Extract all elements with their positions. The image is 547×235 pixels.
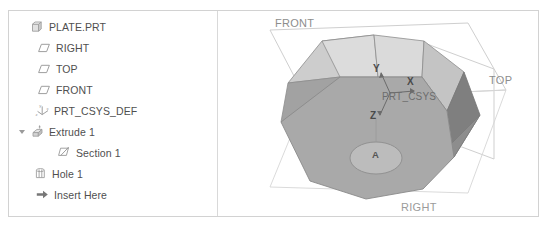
chevron-down-icon[interactable] xyxy=(15,121,28,142)
csys-name-label: PRT_CSYS xyxy=(382,91,436,102)
tree-item-label: FRONT xyxy=(56,84,93,96)
tree-item-label: PRT_CSYS_DEF xyxy=(54,105,137,117)
tree-item-label: Hole 1 xyxy=(52,168,83,180)
tree-item-front[interactable]: FRONT xyxy=(9,79,217,100)
datum-label-front: FRONT xyxy=(275,17,314,29)
twisty-placeholder xyxy=(15,16,28,37)
tree-item-prt-csys-def[interactable]: y x z PRT_CSYS_DEF xyxy=(9,100,217,121)
csys-axis-label-x: X xyxy=(407,76,414,87)
tree-item-plate-prt[interactable]: PLATE.PRT xyxy=(9,16,217,37)
tree-item-section-1[interactable]: Section 1 xyxy=(9,142,217,163)
csys-axis-label-y: Y xyxy=(373,63,380,74)
model-graphics xyxy=(218,11,538,216)
svg-text:x: x xyxy=(46,106,49,111)
datum-label-top: TOP xyxy=(489,74,512,86)
csys-icon: y x z xyxy=(33,102,51,120)
tree-item-label: TOP xyxy=(56,63,78,75)
part-icon xyxy=(28,18,46,36)
graphics-viewport[interactable]: FRONT TOP RIGHT Y X Z PRT_CSYS A xyxy=(218,11,538,216)
tree-item-insert-here[interactable]: Insert Here xyxy=(9,184,217,205)
model-window: PLATE.PRT RIGHT TOP xyxy=(8,10,539,217)
tree-item-label: Extrude 1 xyxy=(49,126,95,138)
model-tree-panel[interactable]: PLATE.PRT RIGHT TOP xyxy=(9,11,218,216)
tree-item-label: Section 1 xyxy=(76,147,121,159)
tree-item-right[interactable]: RIGHT xyxy=(9,37,217,58)
datum-plane-icon xyxy=(35,39,53,57)
extrude-icon xyxy=(28,123,46,141)
tree-item-label: Insert Here xyxy=(54,189,107,201)
svg-text:z: z xyxy=(35,112,37,117)
axis-label-a: A xyxy=(372,149,379,160)
datum-label-right: RIGHT xyxy=(401,201,437,213)
csys-axis-label-z: Z xyxy=(370,110,376,121)
datum-plane-icon xyxy=(35,81,53,99)
tree-item-extrude-1[interactable]: Extrude 1 xyxy=(9,121,217,142)
insert-arrow-icon xyxy=(33,186,51,204)
tree-item-top[interactable]: TOP xyxy=(9,58,217,79)
face-top-2 xyxy=(374,35,424,77)
hole-icon xyxy=(31,165,49,183)
tree-item-label: PLATE.PRT xyxy=(49,21,106,33)
sketch-icon xyxy=(55,144,73,162)
datum-plane-icon xyxy=(35,60,53,78)
tree-item-label: RIGHT xyxy=(56,42,89,54)
tree-item-hole-1[interactable]: Hole 1 xyxy=(9,163,217,184)
